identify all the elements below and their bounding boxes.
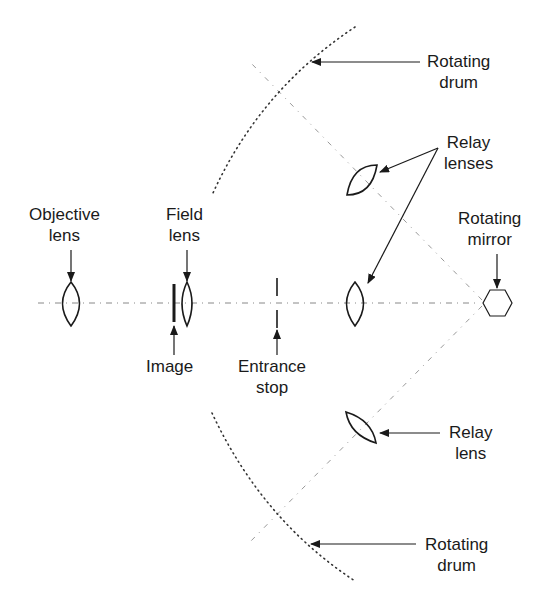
label-rotating-mirror: Rotating mirror: [458, 208, 521, 250]
relay-lens-axis-icon: [347, 282, 364, 326]
rotating-drum-lower-arc: [212, 413, 355, 581]
rotating-mirror-icon: [483, 290, 512, 316]
arrow-relay-upper: [380, 148, 438, 172]
label-field-lens: Field lens: [166, 204, 203, 246]
label-image: Image: [146, 356, 193, 377]
objective-lens-icon: [63, 282, 80, 326]
arrow-relay-axis: [368, 148, 438, 283]
label-rotating-drum-bottom: Rotating drum: [425, 534, 488, 576]
rotating-drum-upper-arc: [213, 27, 355, 193]
label-relay-lens: Relay lens: [449, 422, 492, 464]
lower-reflected-axis: [248, 306, 482, 544]
field-lens-icon: [182, 282, 192, 326]
relay-lens-lower-icon: [346, 412, 376, 443]
upper-reflected-axis: [250, 62, 482, 300]
label-objective-lens: Objective lens: [29, 204, 100, 246]
label-entrance-stop: Entrance stop: [238, 356, 306, 398]
relay-lens-upper-icon: [347, 165, 377, 195]
label-relay-lenses: Relay lenses: [444, 132, 493, 174]
label-rotating-drum-top: Rotating drum: [427, 51, 490, 93]
